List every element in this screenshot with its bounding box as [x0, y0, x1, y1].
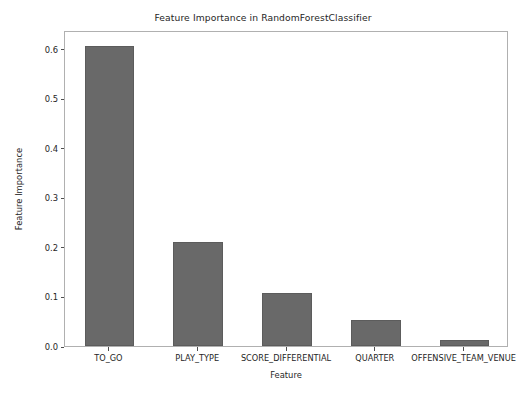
y-tick-label: 0.6 [45, 44, 58, 56]
x-tick-mark [463, 347, 464, 351]
y-tick-label: 0.3 [45, 192, 58, 204]
x-tick-mark [197, 347, 198, 351]
x-tick-label: OFFENSIVE_TEAM_VENUE [411, 353, 516, 363]
y-axis: Feature Importance 0.00.10.20.30.40.50.6 [0, 31, 64, 347]
figure-canvas: Feature Importance in RandomForestClassi… [0, 0, 526, 395]
y-tick-label: 0.4 [45, 143, 58, 155]
bars-layer [65, 32, 507, 346]
x-tick-mark [374, 347, 375, 351]
y-tick-label: 0.5 [45, 93, 58, 105]
plot-area [64, 31, 508, 347]
x-axis-label: Feature [64, 370, 508, 380]
x-tick-mark [108, 347, 109, 351]
y-tick-label: 0.0 [45, 341, 58, 353]
x-tick-label: QUARTER [355, 353, 394, 363]
y-tick-label: 0.2 [45, 242, 58, 254]
chart-title: Feature Importance in RandomForestClassi… [0, 12, 526, 23]
x-tick-mark [286, 347, 287, 351]
bar [173, 242, 223, 346]
y-axis-label: Feature Importance [14, 31, 28, 347]
x-axis: Feature TO_GOPLAY_TYPESCORE_DIFFERENTIAL… [64, 347, 508, 395]
bar [262, 293, 312, 346]
x-tick-label: SCORE_DIFFERENTIAL [241, 353, 331, 363]
y-tick-label: 0.1 [45, 291, 58, 303]
bar [440, 340, 490, 346]
x-tick-label: TO_GO [94, 353, 122, 363]
x-tick-label: PLAY_TYPE [175, 353, 219, 363]
bar [85, 46, 135, 346]
bar [351, 320, 401, 346]
